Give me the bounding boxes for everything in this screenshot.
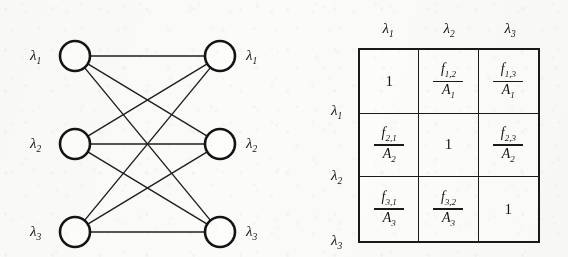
matrix-col-header-1: λ1 xyxy=(358,20,418,39)
matrix-cell-r3-c2: f3,2A3 xyxy=(419,177,478,241)
graph-right-label-3: λ3 xyxy=(246,224,257,243)
matrix-cell-r3-c1: f3,1A3 xyxy=(360,177,419,241)
fraction-numerator: f1,2 xyxy=(439,62,458,80)
graph-left-label-2: λ2 xyxy=(30,136,41,155)
fraction-denominator: A1 xyxy=(500,82,517,100)
matrix-cell-r1-c1: 1 xyxy=(360,50,419,114)
graph-edge-layer xyxy=(85,56,211,232)
fraction-denominator: A3 xyxy=(440,210,457,228)
bipartite-graph-svg xyxy=(0,0,290,257)
matrix-row-header-1: λ1 xyxy=(331,102,342,121)
matrix-cell-fraction: f3,1A3 xyxy=(374,190,404,228)
matrix-cell-value: 1 xyxy=(505,201,513,218)
graph-node-r3[interactable] xyxy=(205,217,235,247)
fraction-denominator: A2 xyxy=(381,146,398,164)
matrix-cell-fraction: f1,3A1 xyxy=(493,62,523,100)
matrix-col-header-3: λ3 xyxy=(480,20,540,39)
graph-node-r2[interactable] xyxy=(205,129,235,159)
fraction-denominator: A1 xyxy=(440,82,457,100)
matrix-cell-fraction: f2,1A2 xyxy=(374,126,404,164)
bipartite-graph-panel: λ1 λ2 λ3 λ1 λ2 λ3 xyxy=(0,0,290,257)
fraction-denominator: A3 xyxy=(381,210,398,228)
matrix-row-header-2: λ2 xyxy=(331,167,342,186)
fraction-numerator: f2,1 xyxy=(380,126,399,144)
matrix-panel: λ1 λ2 λ3 λ1 λ2 λ3 1f1,2A1f1,3A1f2,1A21f2… xyxy=(290,0,568,257)
matrix-cell-r2-c1: f2,1A2 xyxy=(360,114,419,178)
fraction-numerator: f3,2 xyxy=(439,190,458,208)
graph-node-l1[interactable] xyxy=(60,41,90,71)
fraction-numerator: f2,3 xyxy=(499,126,518,144)
graph-node-l2[interactable] xyxy=(60,129,90,159)
matrix-cell-fraction: f1,2A1 xyxy=(433,62,463,100)
matrix-cell-fraction: f2,3A2 xyxy=(493,126,523,164)
graph-left-label-1: λ1 xyxy=(30,48,41,67)
fraction-denominator: A2 xyxy=(500,146,517,164)
matrix-cell-r1-c2: f1,2A1 xyxy=(419,50,478,114)
graph-right-label-2: λ2 xyxy=(246,136,257,155)
matrix-col-header-2: λ2 xyxy=(419,20,479,39)
matrix-cell-r2-c3: f2,3A2 xyxy=(479,114,538,178)
graph-right-label-1: λ1 xyxy=(246,48,257,67)
matrix-cell-value: 1 xyxy=(385,73,393,90)
graph-left-label-3: λ3 xyxy=(30,224,41,243)
matrix-cell-r2-c2: 1 xyxy=(419,114,478,178)
matrix-cell-r3-c3: 1 xyxy=(479,177,538,241)
matrix-row-header-3: λ3 xyxy=(331,232,342,251)
fraction-numerator: f1,3 xyxy=(499,62,518,80)
matrix-cell-r1-c3: f1,3A1 xyxy=(479,50,538,114)
graph-node-l3[interactable] xyxy=(60,217,90,247)
matrix-cell-value: 1 xyxy=(445,136,453,153)
matrix-grid: 1f1,2A1f1,3A1f2,1A21f2,3A2f3,1A3f3,2A31 xyxy=(358,48,540,243)
matrix-cell-fraction: f3,2A3 xyxy=(433,190,463,228)
fraction-numerator: f3,1 xyxy=(380,190,399,208)
graph-node-r1[interactable] xyxy=(205,41,235,71)
